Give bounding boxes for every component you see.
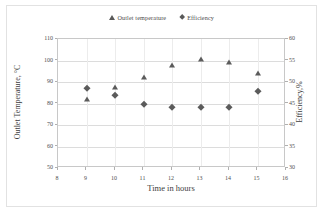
tick-mark — [285, 124, 288, 125]
y-axis-left-tick-label: 90 — [31, 78, 53, 84]
x-axis-tick-label: 14 — [225, 175, 231, 181]
tick-mark — [171, 167, 172, 170]
tick-mark — [55, 145, 58, 146]
gridline — [58, 147, 284, 148]
vertical-gridline — [258, 39, 259, 166]
x-axis-title: Time in hours — [147, 183, 194, 193]
tick-mark — [228, 167, 229, 170]
y-axis-right-tick-label: 55 — [289, 57, 311, 63]
x-axis-tick-label: 11 — [140, 175, 146, 181]
y-axis-left-tick-label: 100 — [31, 57, 53, 63]
x-axis-tick-label: 13 — [197, 175, 203, 181]
tick-mark — [85, 167, 86, 170]
legend-item-outlet-temperature[interactable]: Outlet temperature — [109, 14, 166, 21]
data-point-triangle — [141, 74, 147, 79]
y-axis-left-tick-label: 50 — [31, 164, 53, 170]
data-point-diamond — [254, 87, 260, 93]
x-axis-tick-label: 10 — [111, 175, 117, 181]
data-point-diamond — [112, 92, 118, 98]
tick-mark — [142, 167, 143, 170]
x-axis-tick-label: 12 — [168, 175, 174, 181]
data-point-triangle — [226, 59, 232, 64]
tick-mark — [55, 59, 58, 60]
data-point-triangle — [84, 97, 90, 102]
x-axis-tick-label: 8 — [56, 175, 59, 181]
legend-label-efficiency: Efficiency — [187, 14, 214, 21]
y-axis-right-tick-label: 35 — [289, 143, 311, 149]
x-axis-tick-label: 15 — [254, 175, 260, 181]
y-axis-right-tick-label: 30 — [289, 164, 311, 170]
x-axis-tick-label: 16 — [282, 175, 288, 181]
y-axis-right-tick-label: 60 — [289, 35, 311, 41]
tick-mark — [114, 167, 115, 170]
tick-mark — [55, 81, 58, 82]
tick-mark — [285, 102, 288, 103]
data-point-diamond — [83, 85, 89, 91]
triangle-marker-icon — [109, 15, 115, 20]
y-axis-left-title: Outlet Temperature, °C — [13, 65, 22, 140]
y-axis-left-tick-label: 80 — [31, 100, 53, 106]
tick-mark — [285, 145, 288, 146]
y-axis-left-tick-label: 110 — [31, 35, 53, 41]
tick-mark — [55, 102, 58, 103]
data-point-triangle — [255, 71, 261, 76]
data-point-triangle — [112, 85, 118, 90]
data-point-diamond — [140, 100, 146, 106]
vertical-gridline — [229, 39, 230, 166]
tick-mark — [285, 81, 288, 82]
tick-mark — [285, 167, 286, 170]
chart-legend: Outlet temperature Efficiency — [0, 14, 323, 21]
vertical-gridline — [87, 39, 88, 166]
chart-figure: Outlet temperature Efficiency 5060708090… — [0, 0, 323, 213]
gridline — [58, 82, 284, 83]
x-axis-tick-label: 9 — [84, 175, 87, 181]
gridline — [58, 125, 284, 126]
tick-mark — [199, 167, 200, 170]
data-point-triangle — [169, 62, 175, 67]
tick-mark — [256, 167, 257, 170]
tick-mark — [285, 38, 288, 39]
vertical-gridline — [115, 39, 116, 166]
tick-mark — [55, 38, 58, 39]
diamond-marker-icon — [179, 14, 185, 20]
vertical-gridline — [172, 39, 173, 166]
tick-mark — [285, 59, 288, 60]
y-axis-left-tick-label: 70 — [31, 121, 53, 127]
legend-label-outlet-temperature: Outlet temperature — [117, 14, 166, 21]
plot-area — [57, 38, 285, 167]
data-point-triangle — [198, 57, 204, 62]
y-axis-left-tick-label: 60 — [31, 143, 53, 149]
y-axis-right-title: Efficiency,% — [295, 81, 304, 122]
legend-item-efficiency[interactable]: Efficiency — [180, 14, 214, 21]
tick-mark — [57, 167, 58, 170]
tick-mark — [55, 124, 58, 125]
